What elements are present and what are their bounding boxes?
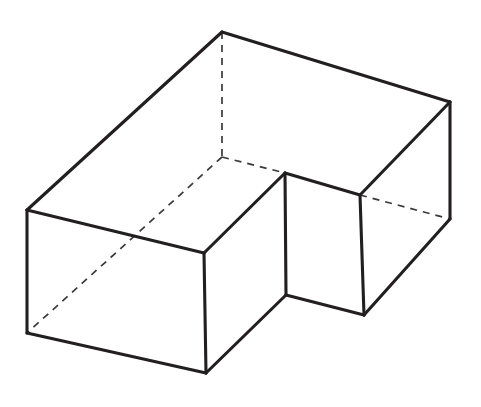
notch-front-vertical-edge (285, 173, 286, 295)
isometric-block-figure: Axonometric line drawing of an L-shaped … (0, 0, 481, 407)
front-center-vertical-edge (204, 253, 206, 373)
